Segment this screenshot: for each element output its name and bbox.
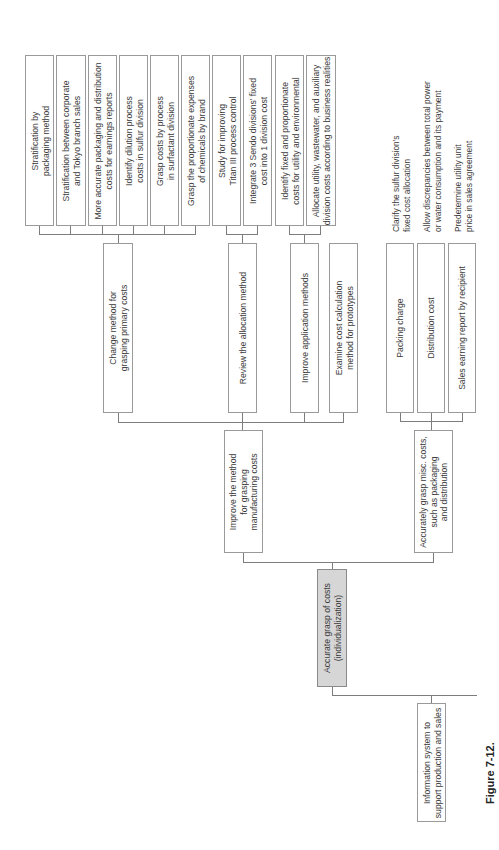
node-label: Improve the method xyxy=(228,453,238,529)
node-label: such as packaging xyxy=(428,456,438,527)
node-label: Titan III process control xyxy=(227,96,237,185)
connector xyxy=(102,226,103,234)
node-review-allocation-method: Review the allocation method xyxy=(228,243,257,413)
node-label: Grasp costs by process xyxy=(154,96,164,186)
note-line: price in sales agreement xyxy=(464,141,474,232)
connector xyxy=(242,422,243,430)
node-label: costs for earnings reports xyxy=(103,92,113,189)
node-label: Study for improving xyxy=(216,103,226,177)
node-label: grasping primary costs xyxy=(118,285,128,371)
node-improve-application-methods: Improve application methods xyxy=(290,243,319,413)
node-label: in surfactant division xyxy=(165,102,175,180)
connector xyxy=(462,413,463,421)
node-improve-manufacturing-costs: Improve the methodfor graspingmanufactur… xyxy=(224,430,263,553)
node-label: Distribution cost xyxy=(426,297,436,358)
connector xyxy=(164,226,165,234)
node-label: cost into 1 division cost xyxy=(258,96,268,184)
connector xyxy=(118,422,344,423)
node-label: for grasping xyxy=(238,469,248,514)
node-change-method-primary-costs: Change method forgrasping primary costs xyxy=(103,243,133,413)
node-identify-dilution-costs: Identify dilution processcosts in sulfur… xyxy=(119,55,148,226)
connector xyxy=(243,562,434,563)
connector xyxy=(289,234,321,235)
node-stratification-packaging: Stratification bypackaging method xyxy=(25,55,54,226)
connector xyxy=(39,226,40,234)
node-label: packaging method xyxy=(40,105,50,175)
connector xyxy=(257,226,258,234)
node-accurate-packaging-distribution: More accurate packaging and distribution… xyxy=(88,55,117,226)
connector xyxy=(118,234,119,243)
connector xyxy=(431,421,432,430)
node-allocate-utility-costs: Allocate utility, wastewater, and auxili… xyxy=(306,55,336,226)
node-stratification-corporate-tokyo: Stratification between corporateand Toky… xyxy=(56,55,86,226)
node-label: (individualization) xyxy=(332,595,342,661)
connector xyxy=(195,226,196,234)
connector xyxy=(242,234,243,243)
node-label: Examine cost calculation xyxy=(333,281,343,376)
node-study-titan-process: Study for improvingTitan III process con… xyxy=(212,55,241,226)
node-label: Sales earning report by recipient xyxy=(457,266,467,390)
node-packing-charge: Packing charge xyxy=(386,243,414,413)
node-grasp-misc-costs: Accurately grasp misc. costs,such as pac… xyxy=(414,430,453,553)
connector xyxy=(332,687,333,695)
node-label: costs in sulfur division xyxy=(134,99,144,183)
node-label: Stratification between corporate xyxy=(61,80,71,201)
node-label: and distribution xyxy=(439,462,449,520)
note-allow-discrepancies: Allow discrepancies between total powero… xyxy=(422,81,443,232)
figure-caption: Figure 7-12. xyxy=(484,742,496,804)
node-label: Accurate grasp of costs xyxy=(322,583,332,673)
node-label: Accurately grasp misc. costs, xyxy=(418,436,428,547)
connector xyxy=(433,553,434,562)
connector xyxy=(400,413,401,421)
node-distribution-cost: Distribution cost xyxy=(417,243,445,413)
node-label: division costs according to business rea… xyxy=(321,56,331,225)
node-label: More accurate packaging and distribution xyxy=(92,62,102,219)
node-label: and Tokyo branch sales xyxy=(71,95,81,185)
connector xyxy=(133,226,134,234)
node-label: method for prototypes xyxy=(344,286,354,370)
node-label: Identify dilution process xyxy=(123,96,133,186)
node-identify-fixed-proportionate: Identify fixed and proportionatecosts fo… xyxy=(275,55,304,226)
node-label: Information system to xyxy=(421,721,431,803)
connector xyxy=(118,413,119,422)
node-label: Identify fixed and proportionate xyxy=(279,81,289,199)
node-root-accurate-grasp-of-costs: Accurate grasp of costs(individualizatio… xyxy=(317,569,347,687)
node-label: Stratification by xyxy=(29,111,39,170)
note-line: or water consumption and its payment xyxy=(433,90,443,232)
connector xyxy=(304,413,305,422)
connector xyxy=(304,234,305,243)
node-label: Integrate 3 Sendo divisions' fixed xyxy=(247,78,257,204)
node-label: Review the allocation method xyxy=(237,272,247,384)
connector xyxy=(70,226,71,234)
connector xyxy=(289,226,290,234)
node-grasp-surfactant-costs: Grasp costs by processin surfactant divi… xyxy=(150,55,179,226)
node-sales-earning-report: Sales earning report by recipient xyxy=(448,243,476,413)
node-label: Grasp the proportionate expenses xyxy=(185,76,195,206)
note-predetermine-utility: Predetermine utility unitprice in sales … xyxy=(453,141,474,232)
node-label: costs for utility and environmental xyxy=(290,77,300,205)
connector xyxy=(332,695,477,696)
node-label: Improve application methods xyxy=(299,273,309,383)
node-label: manufacturing costs xyxy=(249,453,259,530)
node-information-system: Information system tosupport production … xyxy=(417,703,446,822)
node-examine-prototype-cost: Examine cost calculationmethod for proto… xyxy=(329,243,358,413)
connector xyxy=(431,695,432,703)
connector xyxy=(226,226,227,234)
node-label: of chemicals by brand xyxy=(196,99,206,183)
note-clarify-sulfur: Clarify the sulfur division'sfixed cost … xyxy=(391,135,412,232)
connector xyxy=(243,553,244,562)
node-label: Change method for xyxy=(108,291,118,365)
node-label: Allocate utility, wastewater, and auxili… xyxy=(311,64,321,217)
note-line: Allow discrepancies between total power xyxy=(422,81,432,232)
node-label: Packing charge xyxy=(395,298,405,357)
node-label: support production and sales xyxy=(432,707,442,817)
note-line: Predetermine utility unit xyxy=(453,144,463,232)
connector xyxy=(343,413,344,422)
node-grasp-chemicals-by-brand: Grasp the proportionate expensesof chemi… xyxy=(181,55,210,226)
connector xyxy=(332,562,333,569)
note-line: fixed cost allocation xyxy=(402,159,412,232)
note-line: Clarify the sulfur division's xyxy=(391,135,401,232)
connector xyxy=(431,413,432,421)
connector xyxy=(242,413,243,422)
connector xyxy=(320,226,321,234)
